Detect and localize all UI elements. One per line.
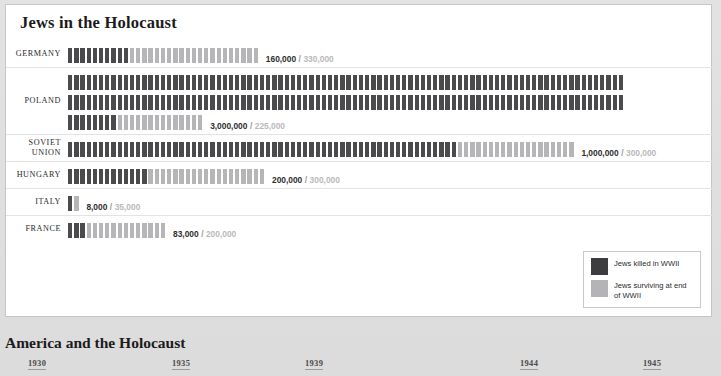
person-figure-dark — [334, 142, 338, 157]
legend-swatch-killed-icon — [591, 258, 608, 275]
person-figure-dark — [285, 95, 289, 110]
person-figure-dark — [93, 75, 97, 90]
person-figure-dark — [192, 75, 196, 90]
person-figure-dark — [80, 223, 84, 238]
person-figure-light — [142, 223, 146, 238]
person-figure-dark — [415, 142, 419, 157]
person-figure-dark — [68, 223, 72, 238]
figure-group — [68, 48, 260, 63]
person-figure-dark — [600, 75, 604, 90]
person-figure-dark — [613, 95, 617, 110]
person-figure-dark — [353, 95, 357, 110]
person-figure-light — [247, 169, 251, 184]
chart-row: ITALY8,000/35,000 — [6, 189, 713, 216]
person-figure-dark — [415, 75, 419, 90]
person-figure-dark — [111, 115, 115, 130]
person-figure-light — [173, 115, 177, 130]
person-figure-dark — [421, 142, 425, 157]
timeline-tick-1945: 1945 — [643, 358, 661, 370]
figure-line: 200,000/300,000 — [68, 166, 713, 184]
person-figure-dark — [204, 75, 208, 90]
person-figure-light — [254, 169, 258, 184]
person-figure-dark — [93, 48, 97, 63]
person-figure-light — [93, 223, 97, 238]
value-killed: 1,000,000 — [581, 149, 618, 157]
person-figure-dark — [192, 95, 196, 110]
person-figure-light — [520, 142, 524, 157]
person-figure-light — [179, 169, 183, 184]
figure-line — [68, 92, 713, 110]
person-figure-dark — [557, 75, 561, 90]
person-figure-dark — [260, 142, 264, 157]
person-figure-dark — [359, 142, 363, 157]
person-figure-dark — [130, 95, 134, 110]
person-figure-dark — [371, 142, 375, 157]
person-figure-dark — [415, 95, 419, 110]
person-figure-dark — [377, 95, 381, 110]
person-figure-dark — [173, 75, 177, 90]
chart-row: GERMANY160,000/330,000 — [6, 41, 713, 68]
row-label-poland: POLAND — [6, 96, 68, 106]
person-figure-dark — [421, 95, 425, 110]
person-figure-dark — [217, 95, 221, 110]
person-figure-dark — [130, 169, 134, 184]
person-figure-dark — [322, 95, 326, 110]
person-figure-dark — [538, 75, 542, 90]
person-figure-dark — [328, 75, 332, 90]
person-figure-dark — [142, 142, 146, 157]
person-figure-dark — [575, 75, 579, 90]
figure-group — [68, 142, 575, 157]
person-figure-dark — [278, 142, 282, 157]
person-figure-dark — [526, 95, 530, 110]
person-figure-dark — [68, 75, 72, 90]
legend-swatch-surviving-icon — [591, 280, 608, 297]
person-figure-dark — [588, 75, 592, 90]
person-figure-dark — [74, 169, 78, 184]
person-figure-dark — [594, 95, 598, 110]
person-figure-dark — [223, 95, 227, 110]
person-figure-dark — [74, 95, 78, 110]
person-figure-dark — [111, 75, 115, 90]
person-figure-dark — [340, 142, 344, 157]
person-figure-dark — [464, 75, 468, 90]
row-label-italy: ITALY — [6, 197, 68, 207]
person-figure-dark — [303, 95, 307, 110]
timeline-tick-1930: 1930 — [28, 358, 46, 370]
person-figure-dark — [340, 75, 344, 90]
pictogram-chart: GERMANY160,000/330,000POLAND3,000,000/22… — [6, 41, 713, 242]
person-figure-dark — [538, 95, 542, 110]
person-figure-dark — [74, 48, 78, 63]
person-figure-dark — [390, 142, 394, 157]
row-value: 3,000,000/225,000 — [210, 122, 285, 130]
person-figure-light — [155, 48, 159, 63]
person-figure-dark — [161, 95, 165, 110]
person-figure-light — [161, 115, 165, 130]
person-figure-dark — [613, 75, 617, 90]
legend-item-killed: Jews killed in WWII — [591, 258, 694, 275]
person-figure-dark — [124, 48, 128, 63]
person-figure-dark — [396, 95, 400, 110]
person-figure-dark — [476, 95, 480, 110]
person-figure-dark — [390, 95, 394, 110]
row-value: 200,000/300,000 — [272, 176, 340, 184]
person-figure-dark — [99, 142, 103, 157]
person-figure-dark — [303, 142, 307, 157]
figure-line: 3,000,000/225,000 — [68, 112, 713, 130]
person-figure-dark — [124, 75, 128, 90]
person-figure-dark — [507, 95, 511, 110]
person-figure-dark — [155, 75, 159, 90]
person-figure-dark — [427, 75, 431, 90]
person-figure-light — [118, 223, 122, 238]
person-figure-dark — [148, 75, 152, 90]
person-figure-dark — [421, 75, 425, 90]
person-figure-dark — [396, 142, 400, 157]
person-figure-dark — [136, 142, 140, 157]
person-figure-dark — [80, 142, 84, 157]
person-figure-dark — [340, 95, 344, 110]
person-figure-dark — [223, 142, 227, 157]
person-figure-light — [569, 142, 573, 157]
person-figure-dark — [551, 95, 555, 110]
person-figure-dark — [520, 75, 524, 90]
person-figure-dark — [575, 95, 579, 110]
person-figure-dark — [619, 95, 623, 110]
